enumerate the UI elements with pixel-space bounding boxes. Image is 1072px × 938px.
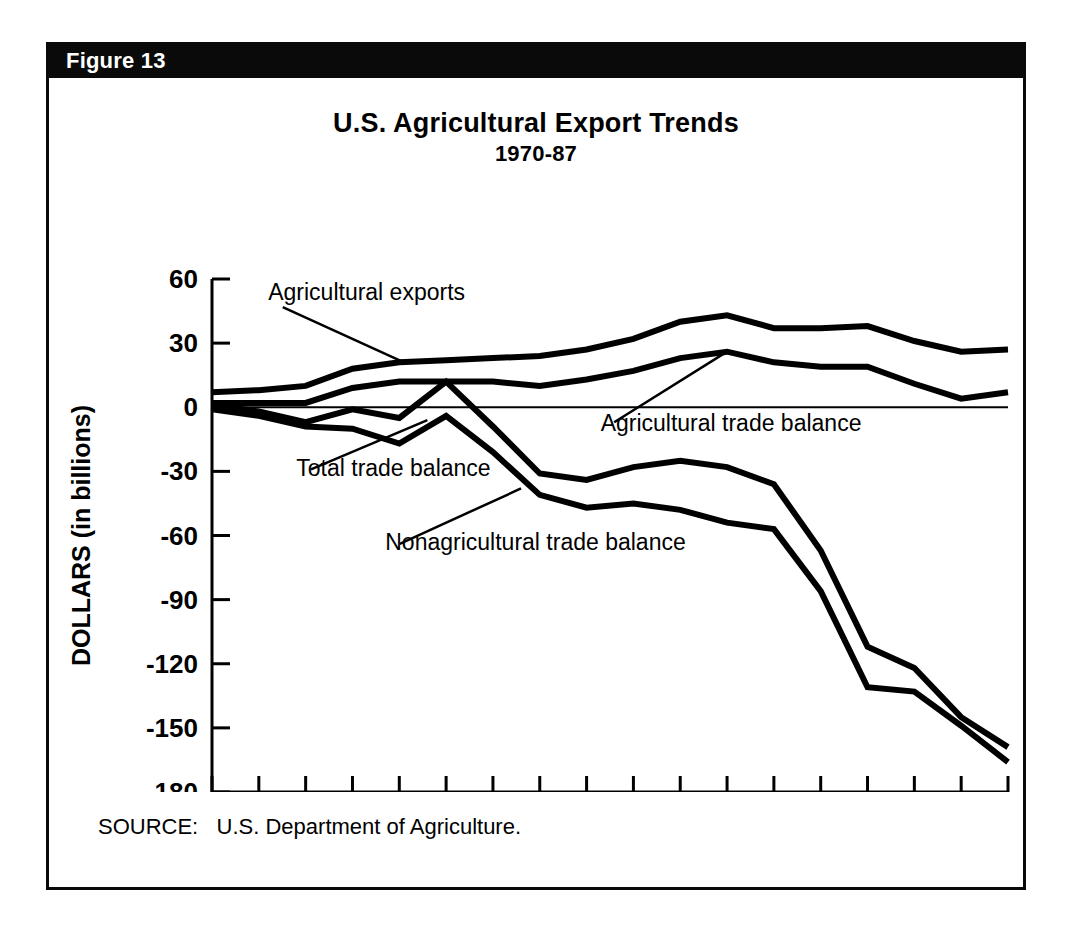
annotation-leader-agricultural-exports: [283, 307, 404, 362]
y-tick-label: 0: [184, 392, 198, 422]
y-tick-label: -30: [160, 456, 198, 486]
line-chart-svg: 60300-30-60-90-120-150-180 1970197219741…: [46, 172, 1026, 792]
y-tick-label: -150: [146, 713, 198, 743]
figure-banner: Figure 13: [46, 42, 1026, 78]
y-tick-label: 30: [169, 328, 198, 358]
plot-area: 60300-30-60-90-120-150-180 1970197219741…: [46, 172, 1026, 792]
annotation-label-agricultural-trade-balance: Agricultural trade balance: [601, 410, 862, 436]
y-axis-title: DOLLARS (in billions): [67, 405, 95, 666]
figure-number-label: Figure 13: [66, 48, 166, 74]
y-tick-label: -90: [160, 585, 198, 615]
y-tick-label: 60: [169, 264, 198, 294]
series-annotations: Agricultural exportsAgricultural trade b…: [268, 279, 861, 555]
series-line-total-trade-balance: [212, 382, 1008, 748]
y-tick-label: -60: [160, 521, 198, 551]
annotation-label-total-trade-balance: Total trade balance: [296, 455, 490, 481]
annotation-label-agricultural-exports: Agricultural exports: [268, 279, 465, 305]
chart-subtitle: 1970-87: [46, 141, 1026, 167]
y-tick-label: -120: [146, 649, 198, 679]
y-tick-labels: 60300-30-60-90-120-150-180: [146, 264, 198, 792]
annotation-label-nonagricultural-trade-balance: Nonagricultural trade balance: [385, 529, 685, 555]
y-tick-label: -180: [146, 777, 198, 792]
figure-card: Figure 13 U.S. Agricultural Export Trend…: [46, 42, 1026, 890]
chart-title: U.S. Agricultural Export Trends: [46, 108, 1026, 139]
source-note: SOURCE: U.S. Department of Agriculture.: [98, 814, 521, 840]
series-line-agricultural-exports: [212, 315, 1008, 392]
y-axis-title-text: DOLLARS (in billions): [67, 405, 95, 666]
